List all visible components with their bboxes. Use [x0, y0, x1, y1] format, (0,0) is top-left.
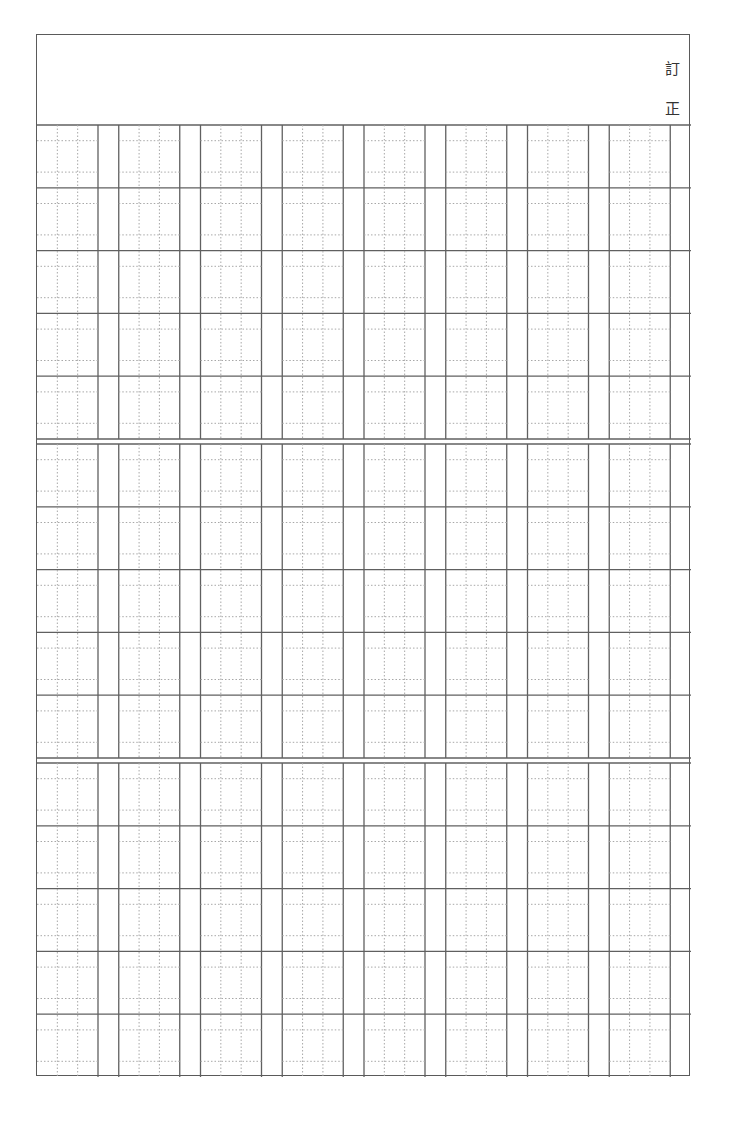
practice-grid: [37, 35, 691, 1077]
worksheet-sheet: 訂 正: [36, 34, 690, 1076]
